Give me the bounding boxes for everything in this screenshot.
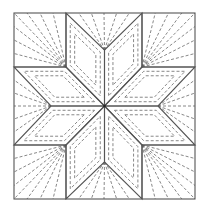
corner-quilting-line <box>14 54 66 68</box>
diamond-quilting-line <box>113 127 134 178</box>
corner-quilting-line <box>142 145 169 199</box>
corner-quilting-line <box>14 13 66 67</box>
corner-quilting-line <box>142 145 195 199</box>
corner-quilting-line <box>27 13 66 67</box>
corner-quilting-line <box>142 13 155 67</box>
diamond-quilting-line <box>125 115 175 136</box>
side-quilting-line <box>91 13 104 50</box>
corner-quilting-line <box>14 145 66 186</box>
corner-quilting-line <box>40 145 66 199</box>
star-diamond-seam <box>105 106 196 145</box>
side-quilting-line <box>79 162 105 199</box>
corner-quilting-line <box>14 145 66 172</box>
side-quilting-line <box>105 13 130 50</box>
side-quilting-line <box>158 80 195 106</box>
side-quilting-line <box>158 106 195 132</box>
corner-quilting-line <box>142 13 182 67</box>
corner-quilting-line <box>142 145 195 186</box>
diamond-quilting-line <box>34 115 84 136</box>
corner-quilting-line <box>27 145 66 199</box>
side-quilting-line <box>14 106 51 132</box>
diamond-quilting-line <box>113 34 134 85</box>
star-diamond-seam <box>105 106 143 199</box>
corner-quilting-line <box>14 145 66 199</box>
side-quilting-line <box>104 162 105 199</box>
side-quilting-line <box>105 162 130 199</box>
corner-quilting-line <box>40 13 66 67</box>
diamond-quilting-line <box>75 127 96 178</box>
corner-quilting-line <box>14 40 66 67</box>
corner-quilting-line <box>142 145 155 199</box>
corner-quilting-line <box>142 27 195 68</box>
corner-quilting-line <box>142 145 195 172</box>
corner-quilting-line <box>14 145 66 159</box>
diamond-quilting-line <box>75 34 96 85</box>
star-diamond-seam <box>66 13 105 106</box>
corner-quilting-line <box>142 145 195 159</box>
side-quilting-line <box>14 80 51 106</box>
corner-quilting-line <box>142 13 169 67</box>
side-quilting-line <box>91 162 104 199</box>
side-quilting-line <box>104 13 105 50</box>
diamond-quilting-line <box>125 76 175 97</box>
side-quilting-line <box>79 13 105 50</box>
corner-quilting-line <box>53 13 66 67</box>
corner-quilting-line <box>142 145 182 199</box>
center-dot <box>103 105 106 108</box>
corner-quilting-line <box>14 27 66 68</box>
corner-quilting-line <box>142 40 195 67</box>
star-diamond-seam <box>105 13 143 106</box>
diamond-quilting-line <box>34 76 84 97</box>
corner-quilting-line <box>142 13 195 67</box>
corner-quilting-line <box>53 145 66 199</box>
quilt-block-diagram <box>0 0 205 204</box>
star-diamond-seam <box>14 67 105 106</box>
corner-quilting-line <box>142 54 195 68</box>
star-diamond-seam <box>66 106 105 199</box>
